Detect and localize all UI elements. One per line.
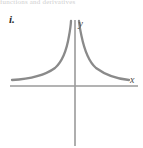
figure-container: functions and derivatives i. y x	[0, 0, 143, 148]
y-axis-label: y	[78, 18, 84, 29]
graph-plot: y x	[0, 0, 143, 148]
curve-left-branch	[12, 21, 71, 80]
curve-right-branch	[79, 21, 129, 80]
x-axis-label: x	[129, 74, 135, 85]
